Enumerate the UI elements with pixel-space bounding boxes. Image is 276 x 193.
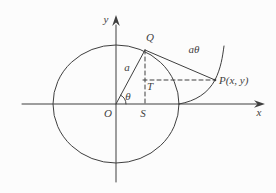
angle-label: θ — [125, 90, 131, 102]
tangent-line-QP — [145, 50, 215, 80]
radius-label: a — [124, 61, 130, 73]
point-Q-label: Q — [146, 31, 154, 43]
origin-label: O — [104, 107, 112, 119]
y-axis-label: y — [103, 13, 109, 25]
arc-length-label: aθ — [189, 43, 201, 55]
involute-of-circle-diagram: y x Q aθ a θ O S T P(x, y) — [0, 0, 276, 193]
point-S-label: S — [140, 107, 146, 119]
point-P-dot — [214, 79, 217, 82]
point-T-label: T — [147, 80, 154, 92]
involute-curve — [179, 46, 224, 104]
x-axis-label: x — [256, 106, 262, 118]
point-P-label: P(x, y) — [218, 74, 249, 87]
y-axis-arrow-icon — [112, 15, 120, 26]
